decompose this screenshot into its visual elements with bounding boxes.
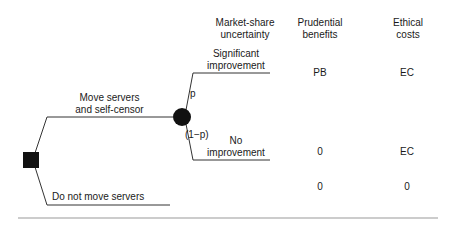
probability-text: (1−p) — [185, 129, 209, 140]
header-ethical-costs: Ethical costs — [383, 17, 433, 41]
header-prudential-benefits: Prudential benefits — [290, 17, 350, 41]
header-line: costs — [383, 29, 433, 41]
outcome-1-costs: EC — [387, 67, 427, 79]
label-line: improvement — [200, 60, 272, 72]
header-line: Prudential — [290, 17, 350, 29]
header-line: benefits — [290, 29, 350, 41]
label-line: improvement — [200, 147, 272, 159]
probability-text: p — [190, 88, 196, 99]
outcome-1-benefits: PB — [300, 67, 340, 79]
outcome-3-costs: 0 — [387, 181, 427, 193]
label-do-not-move: Do not move servers — [52, 191, 144, 203]
header-line: uncertainty — [200, 29, 290, 41]
outcome-3-benefits: 0 — [300, 181, 340, 193]
label-no-improvement: No improvement — [200, 135, 272, 159]
branch-significant-improvement — [186, 73, 270, 110]
branch-move-servers — [35, 117, 173, 153]
decision-node-square — [23, 152, 39, 168]
label-line: Move servers — [52, 92, 167, 104]
label-line: No — [200, 135, 272, 147]
header-line: Ethical — [383, 17, 433, 29]
header-line: Market-share — [200, 17, 290, 29]
probability-p: p — [190, 88, 196, 100]
label-line: Significant — [200, 48, 272, 60]
label-move-servers: Move servers and self-censor — [52, 92, 167, 116]
chance-node-circle — [173, 108, 191, 126]
outcome-2-costs: EC — [387, 146, 427, 158]
header-market-share-uncertainty: Market-share uncertainty — [200, 17, 290, 41]
outcome-2-benefits: 0 — [300, 146, 340, 158]
label-line: and self-censor — [52, 104, 167, 116]
label-text: Do not move servers — [52, 191, 144, 202]
label-significant-improvement: Significant improvement — [200, 48, 272, 72]
probability-1-minus-p: (1−p) — [185, 129, 209, 141]
